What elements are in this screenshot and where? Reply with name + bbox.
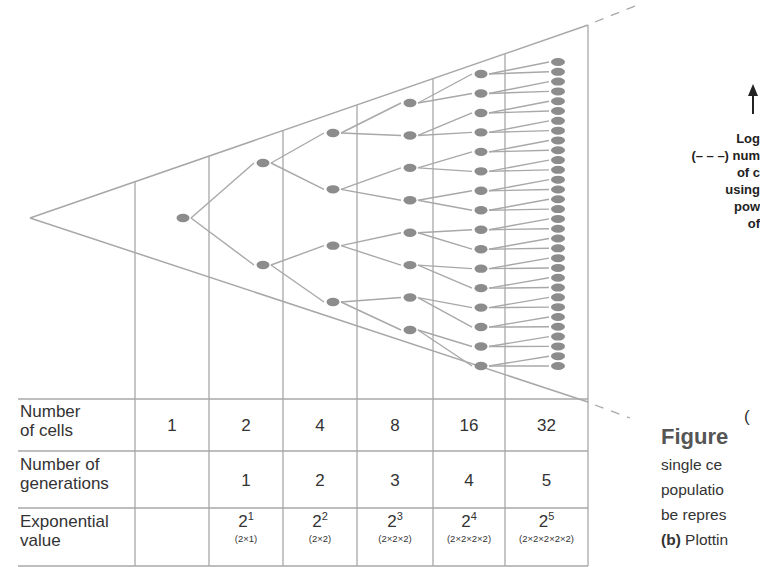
cell-node: [257, 261, 270, 269]
branch-line: [271, 163, 324, 189]
cell-node: [475, 245, 488, 253]
cell-node: [551, 264, 565, 272]
cell-node: [551, 117, 565, 125]
cell-node: [404, 229, 417, 237]
branch-line: [418, 200, 472, 210]
cell-node: [475, 167, 488, 175]
cell-node: [551, 333, 565, 341]
branch-line: [341, 302, 401, 330]
label-line: value: [20, 531, 109, 550]
exp-base: 2: [312, 512, 321, 531]
cell-node: [327, 298, 340, 306]
exp-expansion: (2×1): [209, 533, 283, 544]
label-line: Exponential: [20, 512, 109, 531]
branch-line: [418, 168, 472, 171]
generation-value: 3: [357, 471, 433, 491]
row-label-generations: Number of generations: [20, 455, 109, 493]
cell-count-value: 32: [505, 416, 588, 436]
branch-line: [418, 191, 472, 200]
generation-value: 5: [505, 471, 588, 491]
label-line: Log: [600, 130, 760, 147]
cell-node: [257, 159, 270, 167]
cell-node: [551, 244, 565, 252]
panel-letter: (: [744, 407, 750, 427]
cell-node: [475, 264, 488, 272]
exp-power: 4: [471, 510, 477, 522]
exp-base: 2: [461, 512, 470, 531]
cell-node: [551, 323, 565, 331]
exp-power: 5: [548, 510, 554, 522]
branch-line: [489, 239, 549, 250]
cell-node: [475, 128, 488, 136]
exponential-value: 23(2×2×2): [357, 512, 433, 544]
exponential-value: 24(2×2×2×2): [433, 512, 505, 544]
branch-line: [341, 246, 401, 265]
cell-node: [551, 225, 565, 233]
cell-node: [551, 136, 565, 144]
cell-node: [551, 274, 565, 282]
branch-line: [418, 132, 472, 135]
triangle-outline: [30, 25, 588, 402]
exp-power: 1: [248, 510, 254, 522]
branch-line: [418, 152, 472, 168]
generation-value: 4: [433, 471, 505, 491]
branch-line: [191, 163, 254, 218]
branch-line: [271, 265, 324, 302]
cell-node: [327, 129, 340, 137]
cell-count-value: 4: [283, 416, 357, 436]
cell-count-value: 16: [433, 416, 505, 436]
cell-node: [551, 185, 565, 193]
label-line: pow: [600, 198, 760, 215]
cell-node: [551, 235, 565, 243]
exp-power: 3: [397, 510, 403, 522]
arrow-shaft: [752, 96, 754, 114]
branch-line: [271, 246, 324, 265]
label-line: Number: [20, 402, 80, 421]
cell-node: [551, 352, 565, 360]
branch-line: [489, 268, 549, 269]
cell-node: [551, 87, 565, 95]
cell-node: [551, 254, 565, 262]
exp-base: 2: [387, 512, 396, 531]
caption-line: single ce: [661, 456, 722, 474]
branch-line: [341, 189, 401, 200]
cell-node: [551, 284, 565, 292]
figure-title: Figure: [661, 424, 728, 450]
branch-line: [489, 278, 549, 288]
cell-node: [475, 284, 488, 292]
branch-line: [191, 218, 254, 265]
branch-line: [489, 297, 549, 307]
cell-node: [551, 293, 565, 301]
tree-nodes: [177, 58, 566, 370]
cell-node: [551, 97, 565, 105]
branch-line: [341, 168, 401, 189]
branch-line: [418, 113, 472, 135]
label-line: (– – –) num: [600, 147, 760, 164]
branch-line: [418, 233, 472, 249]
branch-line: [489, 258, 549, 269]
cell-node: [551, 68, 565, 76]
cell-node: [475, 303, 488, 311]
exp-base: 2: [539, 512, 548, 531]
label-line: generations: [20, 474, 109, 493]
caption-text: Plottin: [681, 531, 728, 548]
axis-label-log-number: Log (– – –) num of c using pow of: [600, 130, 760, 232]
cell-node: [551, 58, 565, 66]
row-label-exponential: Exponential value: [20, 512, 109, 550]
branch-line: [271, 133, 324, 163]
label-line: of: [600, 215, 760, 232]
exponential-value: 25(2×2×2×2×2): [505, 512, 588, 544]
cell-node: [404, 196, 417, 204]
caption-line: be repres: [661, 506, 726, 524]
up-arrow-icon: [748, 84, 758, 96]
cell-node: [551, 78, 565, 86]
branch-line: [418, 330, 472, 347]
cell-node: [475, 187, 488, 195]
cell-node: [551, 303, 565, 311]
cell-node: [551, 176, 565, 184]
label-line: Number of: [20, 455, 109, 474]
cell-node: [551, 107, 565, 115]
cell-node: [475, 70, 488, 78]
cell-node: [475, 109, 488, 117]
cell-node: [475, 89, 488, 97]
